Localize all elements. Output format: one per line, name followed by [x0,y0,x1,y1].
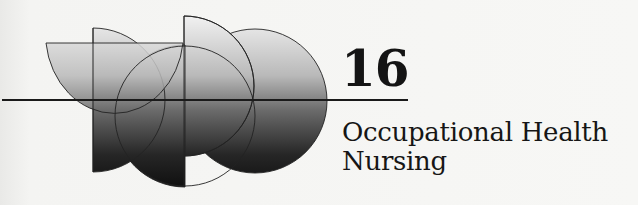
emblem-shapes [46,16,327,187]
chapter-number: 16 [341,44,409,94]
chapter-title-line-1: Occupational Health [342,118,608,147]
chapter-title-line-2: Nursing [342,147,608,176]
chapter-title: Occupational Health Nursing [342,118,608,176]
